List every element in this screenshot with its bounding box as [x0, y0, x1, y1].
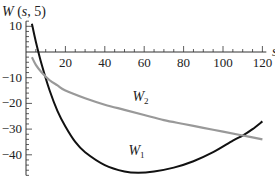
x-tick-label: 40: [98, 55, 111, 70]
y-tick-label: −20: [2, 95, 22, 110]
curve-label-w2: W2: [132, 89, 148, 106]
x-tick-label: 100: [213, 55, 233, 70]
y-tick-label: 10: [9, 18, 22, 33]
curve-label-w1: W1: [128, 143, 144, 160]
x-axis-title: s: [272, 44, 275, 59]
x-tick-label: 80: [177, 55, 190, 70]
labels: 2040608010012010−10−20−30−40W (s, 5)sW2W…: [2, 4, 275, 162]
y-axis-title: W (s, 5): [2, 4, 46, 20]
x-tick-label: 120: [253, 55, 273, 70]
y-tick-label: −30: [2, 121, 22, 136]
y-tick-label: −40: [2, 147, 22, 162]
x-tick-label: 20: [59, 55, 72, 70]
x-tick-label: 60: [138, 55, 151, 70]
y-tick-label: −10: [2, 70, 22, 85]
chart: 2040608010012010−10−20−30−40W (s, 5)sW2W…: [0, 0, 275, 192]
